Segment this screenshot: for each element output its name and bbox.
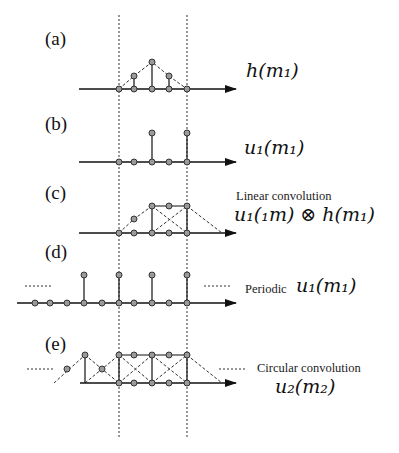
panel-e-plot [27,352,247,386]
sample-dots [116,130,190,165]
sample-dots [64,352,190,386]
caption-linear-convolution: Linear convolution [236,189,331,204]
convolution-diagram [0,0,399,453]
panel-label-d: (d) [45,241,67,263]
caption-periodic: Periodic [245,282,287,297]
panel-b-plot [79,130,236,165]
caption-circular-convolution: Circular convolution [257,361,361,376]
triangle-envelope [119,62,187,89]
formula-u2-m2: u₂(m₂) [275,375,335,397]
formula-u1-m1: u₁(m₁) [244,136,304,158]
panel-d-plot [17,272,236,306]
panel-c-plot [79,203,236,236]
formula-linear-convolution: u₁(₁m) ⊗ h(m₁) [234,203,375,225]
formula-periodic-u1: u₁(m₁) [296,274,356,296]
guide-lines [119,15,187,437]
sample-dots [32,272,190,306]
panel-label-c: (c) [45,182,66,204]
sample-dots [116,203,190,236]
panel-label-b: (b) [45,113,67,135]
sample-dots [116,59,190,92]
formula-h-m1: h(m₁) [246,59,299,81]
panel-a-plot [79,59,236,92]
panel-label-a: (a) [45,28,66,50]
panel-label-e: (e) [45,333,66,355]
